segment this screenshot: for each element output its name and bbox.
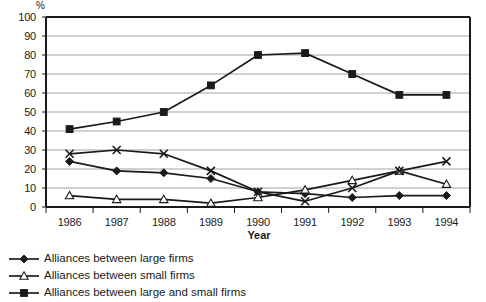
- y-axis-unit-label: %: [36, 1, 45, 11]
- legend-item: Alliances between large firms: [8, 250, 478, 267]
- marker-square: [443, 92, 450, 99]
- y-tick-label: 70: [6, 69, 36, 80]
- legend-marker-filled-diamond-icon: [8, 252, 40, 266]
- legend-item: Alliances between small firms: [8, 267, 478, 284]
- legend-marker-filled-square-icon: [8, 286, 40, 300]
- legend-label: Alliances between large firms: [44, 252, 194, 265]
- x-tick-label: 1991: [283, 217, 327, 228]
- x-tick-label: 1993: [377, 217, 421, 228]
- marker-diamond: [160, 169, 168, 177]
- series-line-2: [70, 53, 447, 129]
- marker-square: [302, 50, 309, 57]
- y-tick-label: 50: [6, 107, 36, 118]
- x-tick-label: 1990: [236, 217, 280, 228]
- x-tick-label: 1986: [48, 217, 92, 228]
- marker-square: [113, 118, 120, 125]
- marker-square: [66, 126, 73, 133]
- marker-diamond: [442, 192, 450, 200]
- y-tick-label: 90: [6, 31, 36, 42]
- marker-square: [160, 109, 167, 116]
- marker-diamond: [113, 167, 121, 175]
- y-tick-label: 10: [6, 183, 36, 194]
- x-tick-label: 1989: [189, 217, 233, 228]
- x-tick-label: 1988: [142, 217, 186, 228]
- chart-legend: Alliances between large firmsAlliances b…: [8, 250, 478, 301]
- marker-square: [349, 71, 356, 78]
- chart-plot-area: % 1009080706050403020100 198619871988198…: [0, 0, 486, 246]
- legend-label: Alliances between large and small firms: [44, 286, 246, 299]
- y-tick-label: 60: [6, 88, 36, 99]
- chart-svg: [0, 0, 486, 246]
- y-tick-label: 100: [6, 12, 36, 23]
- marker-square: [207, 82, 214, 89]
- x-axis-title-text: Year: [247, 229, 270, 241]
- y-tick-label: 40: [6, 126, 36, 137]
- marker-diamond: [66, 157, 74, 165]
- marker-diamond: [348, 194, 356, 202]
- y-tick-label: 0: [6, 202, 36, 213]
- x-tick-label: 1987: [95, 217, 139, 228]
- legend-marker-open-triangle-icon: [8, 269, 40, 283]
- marker-square: [255, 52, 262, 59]
- y-tick-label: 80: [6, 50, 36, 61]
- x-tick-label: 1994: [424, 217, 468, 228]
- chart-figure: % 1009080706050403020100 198619871988198…: [0, 0, 486, 302]
- legend-item: Alliances between large and small firms: [8, 284, 478, 301]
- x-axis-title: Year: [0, 230, 486, 241]
- marker-square: [396, 92, 403, 99]
- marker-diamond: [207, 175, 215, 183]
- y-tick-label: 20: [6, 164, 36, 175]
- y-tick-label: 30: [6, 145, 36, 156]
- marker-diamond: [395, 192, 403, 200]
- legend-label: Alliances between small firms: [44, 269, 195, 282]
- x-tick-label: 1992: [330, 217, 374, 228]
